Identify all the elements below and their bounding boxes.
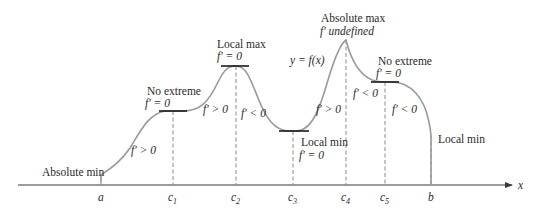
label-derivative-c1: f′ = 0 [145, 97, 170, 110]
tick-c1: c1 [168, 191, 177, 206]
label-derivative-c5: f′ = 0 [376, 67, 401, 80]
tick-c2: c2 [231, 191, 240, 206]
label-derivative-c2: f′ = 0 [217, 50, 242, 63]
extrema-diagram: x a c1 c2 c3 c4 c5 b Absolute min No ext… [0, 0, 534, 209]
tick-b: b [428, 191, 434, 203]
tick-c4: c4 [341, 191, 350, 206]
label-local-min-b: Local min [438, 133, 485, 145]
label-local-max: Local max [217, 38, 266, 50]
x-axis-label: x [517, 179, 524, 191]
tick-a: a [98, 191, 104, 203]
interval-c1-c2: f′ > 0 [203, 103, 228, 116]
tick-c3: c3 [288, 191, 297, 206]
curve-label: y = f(x) [289, 54, 325, 67]
label-local-min-c3: Local min [301, 136, 348, 148]
label-absolute-max: Absolute max [321, 12, 385, 24]
label-absolute-min: Absolute min [42, 166, 105, 178]
tick-c5: c5 [380, 191, 389, 206]
label-no-extreme-c5: No extreme [378, 55, 432, 67]
interval-c5-b: f′ < 0 [392, 103, 417, 116]
label-derivative-c3: f′ = 0 [299, 149, 324, 162]
label-no-extreme-c1: No extreme [147, 85, 201, 97]
interval-c4-c5: f′ < 0 [353, 87, 378, 100]
interval-c2-c3: f′ < 0 [241, 107, 266, 120]
interval-c3-c4: f′ > 0 [316, 103, 341, 116]
interval-a-c1: f′ > 0 [131, 144, 156, 157]
label-derivative-c4: f′ undefined [320, 25, 374, 38]
